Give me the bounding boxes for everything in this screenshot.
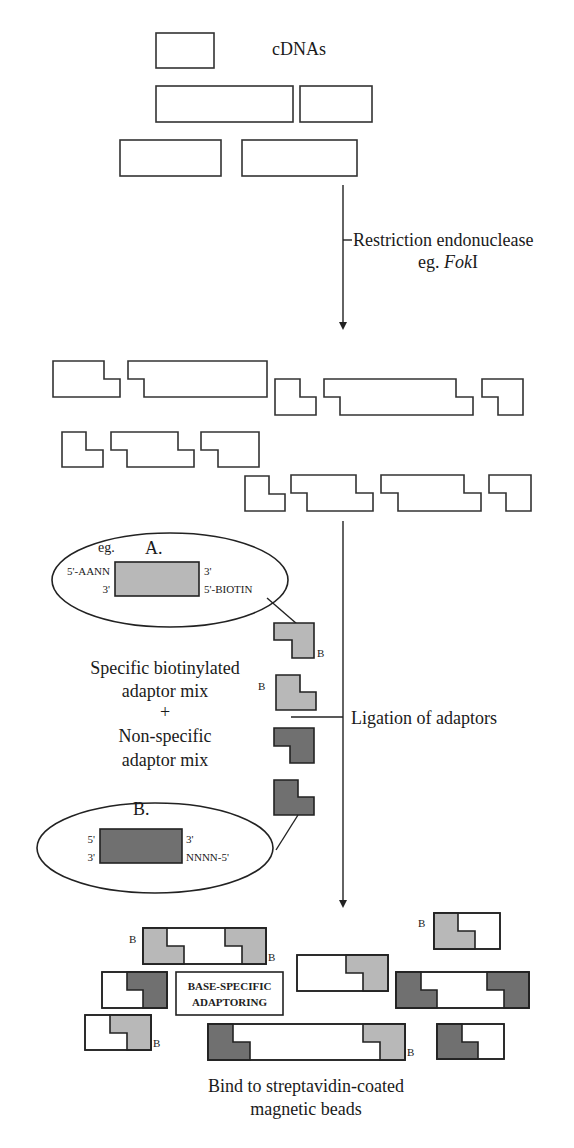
adaptor-b-callout: B. 5' 3' 3' NNNN-5' <box>37 799 298 893</box>
adaptor-a-right-bottom: 5'-BIOTIN <box>204 583 252 595</box>
adaptor-a-duplex <box>115 562 199 596</box>
digested-fragment <box>275 379 316 415</box>
result-label-box: BASE-SPECIFIC ADAPTORING <box>176 972 283 1015</box>
biotin-marker: B <box>268 951 275 963</box>
result-box-frame <box>176 972 283 1015</box>
adaptored-fragment <box>208 1024 405 1060</box>
nonspecific-adaptor <box>274 780 314 815</box>
diagram-canvas: cDNAs Restriction endonuclease eg. FokI … <box>0 0 574 1148</box>
adaptor-b-label: B. <box>133 799 150 819</box>
step1-label-line2: eg. FokI <box>418 252 478 272</box>
biotin-marker: B <box>153 1037 160 1049</box>
adaptored-fragment <box>102 972 167 1008</box>
biotin-marker: B <box>407 1046 414 1058</box>
adaptor-b-connector <box>276 815 298 850</box>
cdna-fragment <box>120 140 221 176</box>
adaptor-a-left-top: 5'-AANN <box>67 565 110 577</box>
adaptor-b-duplex <box>100 829 182 863</box>
digested-fragment <box>324 379 473 415</box>
adaptored-fragments: B B B <box>85 913 529 1060</box>
adaptored-fragment <box>434 913 500 949</box>
adaptor-pieces: B B <box>258 623 324 815</box>
adaptor-a-right-top: 3' <box>204 565 212 577</box>
nonspecific-adaptor <box>274 728 314 763</box>
cdna-fragments <box>120 33 372 176</box>
result-box-line2: ADAPTORING <box>192 996 267 1008</box>
digested-fragment <box>53 361 120 397</box>
biotinylated-adaptor <box>276 675 316 710</box>
digested-fragment <box>245 476 285 511</box>
mix-line-1: Specific biotinylated <box>90 658 239 678</box>
digested-fragment <box>62 432 103 467</box>
adaptored-fragment <box>396 972 529 1008</box>
mix-line-3: + <box>160 702 170 722</box>
final-step-line1: Bind to streptavidin-coated <box>208 1076 404 1096</box>
digested-fragments <box>53 361 531 511</box>
cdna-fragment <box>300 86 372 122</box>
digested-fragment <box>128 361 267 397</box>
result-box-line1: BASE-SPECIFIC <box>188 980 272 992</box>
cdna-fragment <box>156 33 214 68</box>
adaptored-fragment <box>297 955 388 991</box>
final-step-line2: magnetic beads <box>250 1099 361 1119</box>
digested-fragment <box>489 475 531 511</box>
adaptor-b-left-bottom: 3' <box>88 851 96 863</box>
adaptor-a-eg: eg. <box>98 540 115 555</box>
biotin-marker: B <box>258 680 265 692</box>
adaptor-a-left-bottom: 3' <box>103 583 111 595</box>
adaptor-b-right-top: 3' <box>186 833 194 845</box>
digested-fragment <box>291 475 373 511</box>
adaptor-mix-text: Specific biotinylated adaptor mix + Non-… <box>90 658 239 770</box>
adaptored-fragment <box>143 928 266 964</box>
cdna-fragment <box>242 140 357 176</box>
mix-line-2: adaptor mix <box>122 681 208 701</box>
arrow-down-icon <box>339 322 347 330</box>
biotinylated-adaptor <box>274 623 314 658</box>
adaptored-fragment <box>85 1015 151 1050</box>
digested-fragment <box>111 432 194 467</box>
step1-label-line1: Restriction endonuclease <box>353 230 533 250</box>
digested-fragment <box>482 379 523 415</box>
biotin-marker: B <box>418 917 425 929</box>
adaptor-a-callout: eg. A. 5'-AANN 3' 3' 5'-BIOTIN <box>52 533 297 627</box>
adaptored-fragment <box>437 1024 504 1059</box>
adaptor-a-label: A. <box>145 538 163 558</box>
cdna-fragment <box>156 86 293 122</box>
cdnas-label: cDNAs <box>272 39 326 59</box>
adaptor-b-left-top: 5' <box>88 833 96 845</box>
step2-label: Ligation of adaptors <box>351 708 497 728</box>
mix-line-5: adaptor mix <box>122 750 208 770</box>
biotin-marker: B <box>317 647 324 659</box>
biotin-marker: B <box>129 933 136 945</box>
adaptor-a-connector <box>267 598 297 624</box>
digested-fragment <box>381 475 481 511</box>
digested-fragment <box>201 432 259 467</box>
mix-line-4: Non-specific <box>119 726 212 746</box>
arrow-down-icon <box>339 900 347 908</box>
adaptor-b-right-bottom: NNNN-5' <box>186 851 229 863</box>
